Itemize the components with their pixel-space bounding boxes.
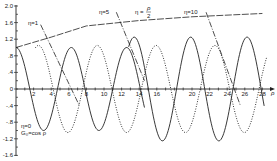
label-eta-half-num: ρ xyxy=(146,5,151,11)
svg-text:-.4: -.4 xyxy=(6,103,14,109)
label-eta-half-den: 2 xyxy=(147,13,151,19)
x-axis-label: ρ xyxy=(270,90,275,96)
svg-text:1.2: 1.2 xyxy=(5,36,14,42)
svg-text:0: 0 xyxy=(10,86,14,92)
label-eta-0: η=0 xyxy=(21,123,32,129)
svg-text:4: 4 xyxy=(50,91,54,97)
svg-text:10: 10 xyxy=(101,91,108,97)
svg-text:-1.6: -1.6 xyxy=(3,152,14,158)
chart: 2.01.61.2.8.40-.4-.8-1.2-1.6 24681012141… xyxy=(0,0,277,161)
marker-eta-5 xyxy=(116,12,144,80)
label-eta-5: η=5 xyxy=(99,9,110,15)
svg-text:.8: .8 xyxy=(8,53,14,59)
svg-text:20: 20 xyxy=(189,91,196,97)
svg-text:26: 26 xyxy=(241,91,248,97)
svg-text:6: 6 xyxy=(67,91,71,97)
svg-text:1.6: 1.6 xyxy=(5,20,14,26)
series-envelope xyxy=(16,13,262,47)
svg-text:12: 12 xyxy=(118,91,125,97)
label-eta-1: η=1 xyxy=(28,20,39,26)
svg-text:22: 22 xyxy=(206,91,213,97)
svg-text:2.0: 2.0 xyxy=(5,3,14,9)
svg-text:.4: .4 xyxy=(8,69,14,75)
svg-text:-1.2: -1.2 xyxy=(3,136,14,142)
svg-text:16: 16 xyxy=(153,91,160,97)
marker-eta-1 xyxy=(41,25,80,106)
label-g0: G₀=cos ρ xyxy=(21,130,47,136)
svg-text:2: 2 xyxy=(32,91,36,97)
svg-text:-.8: -.8 xyxy=(6,119,14,125)
label-eta-10: η=10 xyxy=(184,9,198,15)
label-eta-half: η = xyxy=(135,9,144,15)
